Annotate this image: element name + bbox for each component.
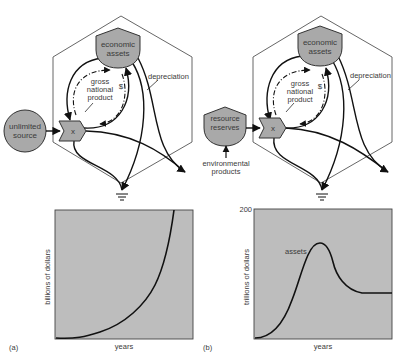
interaction-symbol: x xyxy=(271,124,275,133)
source-label-2: reserves xyxy=(211,123,240,132)
chart-b-xlabel: years xyxy=(314,342,333,351)
dollar-sign: $ xyxy=(119,82,124,91)
source-label-1: resource xyxy=(210,114,239,123)
source-label-1: unlimited xyxy=(9,122,41,131)
depreciation-label: depreciation xyxy=(350,71,391,80)
economic-assets-node: economic assets xyxy=(96,28,140,68)
chart-a-ylabel: billions of dollars xyxy=(43,249,52,305)
unlimited-source-node: unlimited source xyxy=(4,110,46,152)
figure-canvas: unlimited source x economic assets gross… xyxy=(0,0,398,358)
gnp-label-3: product xyxy=(287,95,313,104)
heat-sink-ground-icon xyxy=(116,194,128,200)
economic-assets-node: economic assets xyxy=(298,26,342,66)
depreciation-label: depreciation xyxy=(148,72,189,81)
interaction-node: x xyxy=(259,118,286,138)
panel-label-b: (b) xyxy=(203,343,213,352)
diagram-b: resource reserves environmental products… xyxy=(202,16,392,200)
assets-label-2: assets xyxy=(106,49,129,58)
assets-label-1: economic xyxy=(101,40,135,49)
chart-b-assets-label: assets xyxy=(285,247,307,256)
resource-reserves-node: resource reserves xyxy=(204,107,246,146)
inflow-label-2: products xyxy=(212,167,241,176)
heat-sink-ground-icon xyxy=(316,194,328,200)
panel-label-a: (a) xyxy=(9,343,19,352)
interaction-symbol: x xyxy=(71,127,75,136)
chart-b-plot-area xyxy=(254,209,392,339)
interaction-node: x xyxy=(59,121,86,141)
gnp-label-3: product xyxy=(87,93,113,102)
diagram-a: unlimited source x economic assets gross… xyxy=(4,16,192,200)
chart-b-ytick-200: 200 xyxy=(239,205,252,214)
chart-a: billions of dollars years (a) xyxy=(9,210,193,352)
assets-label-1: economic xyxy=(303,38,337,47)
source-label-2: source xyxy=(13,131,38,140)
chart-b-ylabel: trillions of dollars xyxy=(242,249,251,305)
assets-label-2: assets xyxy=(308,47,331,56)
chart-a-xlabel: years xyxy=(115,342,134,351)
dollar-sign: $ xyxy=(318,82,323,91)
chart-b: assets 200 trillions of dollars years (b… xyxy=(203,205,392,352)
